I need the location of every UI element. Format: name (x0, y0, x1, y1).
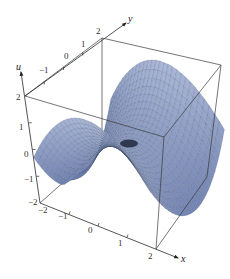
u-tick-label: −1 (24, 174, 34, 184)
x-tick-label: 1 (118, 238, 123, 248)
u-tick-label: 1 (19, 122, 24, 132)
saddle-point-shadow (120, 140, 138, 148)
tick (98, 223, 99, 226)
tick (127, 235, 128, 238)
y-tick-label: 1 (81, 39, 86, 49)
y-tick-label: 0 (64, 51, 69, 61)
u-tick-label: 0 (24, 149, 29, 159)
y-axis-label: y (127, 13, 133, 24)
u-axis-label: u (16, 61, 21, 72)
u-tick-label: 2 (16, 92, 21, 102)
x-axis-label: x (180, 253, 186, 264)
tick (69, 212, 70, 215)
x-tick-label: −1 (58, 211, 68, 221)
surface-plot: u y x −2−1012−1012210−1−2 (0, 0, 230, 279)
x-tick-label: −2 (38, 205, 48, 215)
x-tick-label: 2 (148, 251, 153, 261)
u-tick-label: −2 (28, 197, 38, 207)
y-tick-label: −1 (39, 65, 49, 75)
x-tick-label: 0 (88, 225, 93, 235)
y-tick-label: 2 (96, 26, 101, 36)
